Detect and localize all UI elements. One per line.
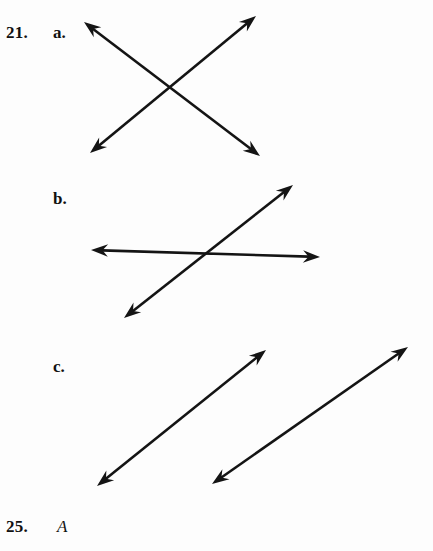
part-label-b: b.: [53, 190, 67, 207]
line-upper-left-to-lower-right: [93, 29, 251, 150]
intersecting-lines-x: [84, 16, 260, 156]
geometry-figures-canvas: [0, 0, 433, 551]
line-parallel-left: [106, 357, 258, 479]
scanned-page: 21. a. b. c. 25. A: [0, 0, 433, 551]
problem-number-25: 25.: [6, 518, 28, 535]
parallel-lines: [97, 347, 408, 486]
point-label-a: A: [57, 518, 67, 535]
line-lower-left-to-upper-right: [98, 23, 247, 146]
line-horizontal: [102, 250, 309, 256]
part-label-a: a.: [53, 24, 66, 41]
intersecting-lines-oblique: [91, 185, 320, 318]
line-parallel-right: [221, 353, 399, 477]
part-label-c: c.: [53, 358, 65, 375]
problem-number-21: 21.: [6, 24, 28, 41]
line-diagonal-rising: [133, 192, 285, 311]
